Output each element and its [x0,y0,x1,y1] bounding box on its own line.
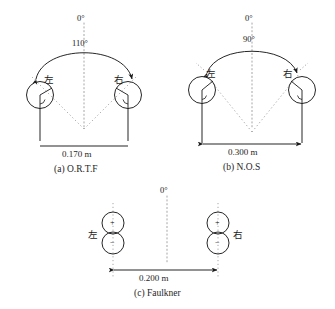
faulkner-reference-label: 0° [160,185,168,195]
nos-angle-label: 90° [243,34,255,44]
nos-left-channel-label: 左 [206,66,216,80]
faulkner-right-channel-label: 右 [233,227,243,241]
nos-right-axis-extension [252,74,299,132]
nos-left-axis-extension [205,74,252,132]
nos-spacing-label: 0.300 m [228,147,258,157]
panel-faulkner [102,196,229,278]
nos-reference-label: 0° [245,13,253,23]
faulkner-right-polarity-positive: + [215,218,220,227]
nos-left-microphone [189,77,216,144]
nos-right-microphone [289,77,316,144]
microphone-techniques-figure [0,0,335,309]
ortf-caption: (a) O.R.T.F [54,164,98,174]
nos-caption: (b) N.O.S [223,162,260,172]
ortf-left-axis-extension [31,76,84,129]
ortf-left-microphone [27,82,54,142]
ortf-right-channel-label: 右 [114,72,124,86]
ortf-reference-label: 0° [77,13,85,23]
faulkner-right-polarity-negative: − [215,238,220,247]
faulkner-left-polarity-positive: + [110,218,115,227]
faulkner-left-polarity-negative: − [110,238,115,247]
nos-left-axis-stub [196,63,204,70]
faulkner-caption: (c) Faulkner [134,288,181,298]
ortf-spacing-label: 0.170 m [62,149,92,159]
cut-off-body-text [0,300,335,309]
faulkner-spacing-label: 0.200 m [139,273,169,283]
ortf-angle-label: 110° [72,38,88,48]
ortf-right-microphone [115,82,142,142]
nos-right-channel-label: 右 [283,66,293,80]
nos-right-axis-stub [300,63,308,70]
ortf-left-channel-label: 左 [44,72,54,86]
faulkner-left-channel-label: 左 [88,227,98,241]
ortf-right-axis-extension [84,76,137,129]
